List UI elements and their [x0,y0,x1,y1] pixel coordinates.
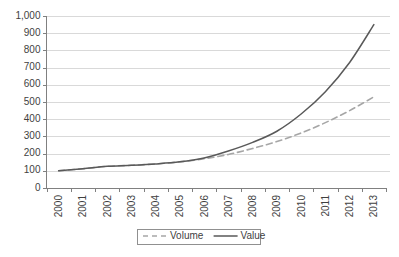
x-axis-tick-label: 2012 [344,195,355,218]
x-axis-tick-label: 2009 [271,195,282,218]
y-axis-tick-label: 300 [24,130,41,141]
y-axis-tick-label: 0 [35,182,41,193]
x-axis-tick-label: 2006 [199,195,210,218]
line-chart: 01002003004005006007008009001,000 200020… [0,0,399,257]
x-axis-tick-label: 2004 [150,195,161,218]
legend-label-value: Value [241,230,266,241]
x-axis-tick-label: 2013 [368,195,379,218]
y-axis-tick-label: 100 [24,164,41,175]
x-axis-tick-label: 2000 [53,195,64,218]
y-axis-tick-label: 200 [24,147,41,158]
x-axis-tick-label: 2010 [296,195,307,218]
y-axis-tick-label: 900 [24,27,41,38]
x-axis-tick-label: 2001 [77,195,88,218]
x-axis-tick-label: 2008 [247,195,258,218]
gridlines-group [47,17,391,172]
chart-canvas: 01002003004005006007008009001,000 200020… [0,0,399,257]
y-axis-tick-label: 700 [24,61,41,72]
x-axis-tick-label: 2011 [320,195,331,217]
y-axis-tick-label: 1,000 [15,10,40,21]
legend-label-volume: Volume [170,230,204,241]
x-axis-tick-label: 2005 [174,195,185,218]
series-line-value [59,25,374,171]
y-tick-marks-group [43,17,47,189]
data-series-group [59,25,374,171]
y-axis-tick-label: 600 [24,78,41,89]
x-axis-tick-label: 2002 [102,195,113,218]
x-axis-tick-label: 2007 [223,195,234,218]
y-axis-tick-label: 400 [24,113,41,124]
series-line-volume [59,97,374,171]
chart-legend: VolumeValue [138,229,266,244]
x-axis-tick-label: 2003 [126,195,137,218]
x-axis-labels-group: 2000200120022003200420052006200720082009… [53,195,379,218]
y-axis-labels-group: 01002003004005006007008009001,000 [15,10,40,193]
y-axis-tick-label: 800 [24,44,41,55]
y-axis-tick-label: 500 [24,96,41,107]
